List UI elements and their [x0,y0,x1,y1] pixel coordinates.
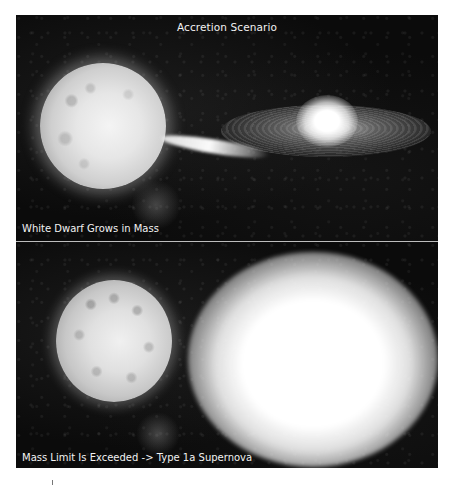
page: Accretion Scenario White Dwarf Grows in … [0,0,453,487]
companion-star-image [40,63,166,189]
supernova-explosion-image [188,252,438,467]
tick-mark [52,480,53,485]
panel-white-dwarf-grows: Accretion Scenario White Dwarf Grows in … [16,15,438,241]
accretion-scenario-figure: Accretion Scenario White Dwarf Grows in … [16,15,438,468]
companion-star-image [56,280,172,402]
faint-glow [136,412,180,456]
white-dwarf-image [296,95,358,147]
figure-title: Accretion Scenario [16,21,438,33]
panel-caption-bottom: Mass Limit Is Exceeded -> Type 1a Supern… [22,452,252,463]
panel-caption-top: White Dwarf Grows in Mass [22,223,159,234]
panel-supernova: Mass Limit Is Exceeded -> Type 1a Supern… [16,242,438,468]
